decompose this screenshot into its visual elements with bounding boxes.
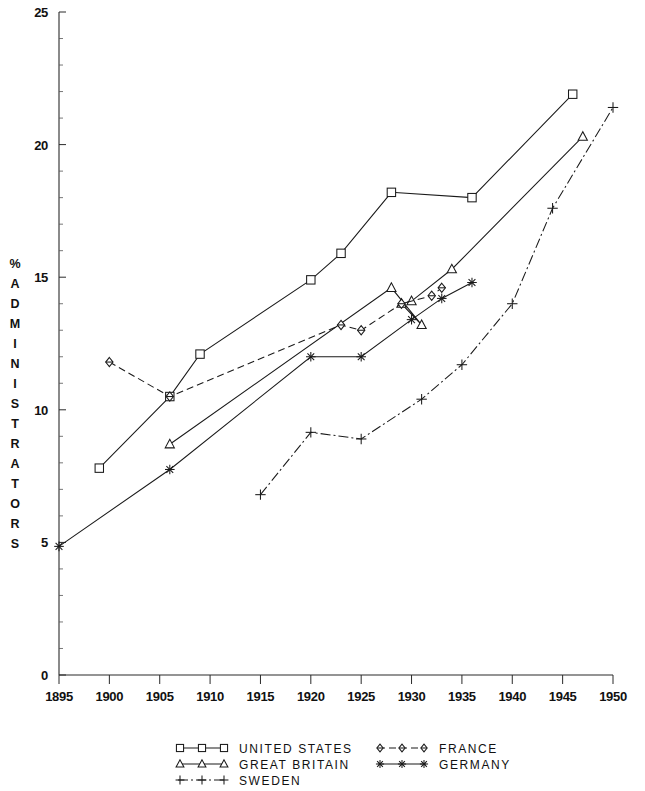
line-chart-svg: 0510152025 18951900190519101915192019251…	[0, 0, 645, 791]
y-axis-title-char: %	[9, 257, 20, 271]
y-axis-title-char: S	[11, 397, 19, 411]
y-axis-title-char: N	[10, 357, 19, 371]
x-tick-label: 1920	[297, 689, 325, 704]
y-tick-label: 5	[41, 535, 48, 550]
y-axis-title-char: I	[13, 377, 16, 391]
legend-label: UNITED STATES	[239, 742, 353, 756]
y-tick-label: 10	[34, 403, 48, 418]
y-axis-title-char: T	[11, 417, 19, 431]
marker-square	[220, 744, 227, 751]
legend-label: GERMANY	[439, 758, 511, 772]
marker-square	[337, 249, 345, 257]
x-tick-label: 1930	[398, 689, 426, 704]
x-tick-label: 1945	[549, 689, 577, 704]
x-tick-label: 1900	[95, 689, 123, 704]
x-tick-label: 1895	[45, 689, 73, 704]
x-tick-label: 1940	[498, 689, 526, 704]
y-axis-title-char: A	[10, 277, 19, 291]
marker-square	[387, 188, 395, 196]
y-axis-title-char: R	[10, 517, 19, 531]
x-tick-label: 1925	[347, 689, 375, 704]
y-axis-title-char: R	[10, 437, 19, 451]
y-axis-title-char: O	[10, 497, 20, 511]
y-tick-label: 25	[34, 5, 48, 20]
y-axis-title-char: T	[11, 477, 19, 491]
marker-square	[176, 744, 183, 751]
y-tick-label: 0	[41, 668, 48, 683]
x-tick-label: 1950	[599, 689, 627, 704]
y-tick-label: 15	[34, 270, 48, 285]
marker-square	[198, 744, 205, 751]
marker-square	[307, 276, 315, 284]
x-tick-label: 1910	[196, 689, 224, 704]
marker-square	[95, 464, 103, 472]
x-tick-label: 1935	[448, 689, 476, 704]
marker-square	[196, 350, 204, 358]
marker-square	[569, 90, 577, 98]
y-axis-title: %ADMINISTRATORS	[9, 257, 20, 551]
y-tick-label: 20	[34, 138, 48, 153]
chart-figure: 0510152025 18951900190519101915192019251…	[0, 0, 645, 791]
y-axis-title-char: A	[10, 457, 19, 471]
y-axis-title-char: M	[10, 317, 20, 331]
y-axis-title-char: S	[11, 537, 19, 551]
y-axis-title-char: I	[13, 337, 16, 351]
y-axis-title-char: D	[10, 297, 19, 311]
legend-label: FRANCE	[439, 742, 498, 756]
x-tick-label: 1905	[146, 689, 174, 704]
legend-label: GREAT BRITAIN	[239, 758, 350, 772]
legend-label: SWEDEN	[239, 774, 301, 788]
x-tick-label: 1915	[247, 689, 275, 704]
marker-square	[468, 193, 476, 201]
